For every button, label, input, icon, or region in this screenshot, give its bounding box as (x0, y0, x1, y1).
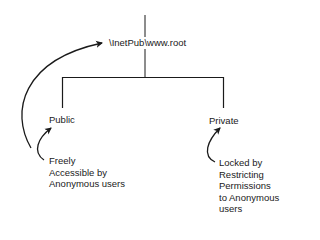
private-annotation-line: Locked by (219, 157, 279, 169)
private-annotation-line: Permissions (219, 180, 279, 192)
public-annotation: Freely Accessible by Anonymous users (49, 155, 125, 190)
public-annotation-line: Anonymous users (49, 178, 125, 190)
private-annotation-line: Restricting (219, 169, 279, 181)
private-folder-label: Private (209, 115, 239, 127)
private-annotation: Locked by Restricting Permissions to Ano… (219, 157, 279, 215)
public-folder-label: Public (49, 114, 75, 126)
public-annotation-line: Freely (49, 155, 125, 167)
private-annotation-line: users (219, 203, 279, 215)
public-annotation-line: Accessible by (49, 167, 125, 179)
root-folder-label: \InetPub\www.root (108, 37, 187, 49)
private-annotation-line: to Anonymous (219, 192, 279, 204)
